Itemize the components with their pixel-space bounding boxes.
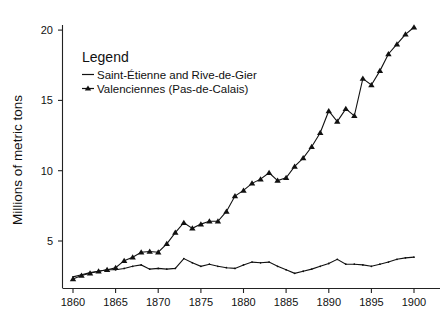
- data-point-marker: [388, 261, 390, 263]
- data-point-marker: [343, 106, 349, 111]
- x-tick-label-1885: 1885: [274, 296, 298, 308]
- data-point-marker: [336, 258, 338, 260]
- data-point-marker: [140, 264, 142, 266]
- data-point-marker: [319, 265, 321, 267]
- data-point-marker: [223, 208, 229, 213]
- data-point-marker: [405, 257, 407, 259]
- data-point-marker: [302, 270, 304, 272]
- data-point-marker: [166, 268, 168, 270]
- data-point-marker: [353, 263, 355, 265]
- data-point-marker: [360, 76, 366, 81]
- data-point-marker: [362, 264, 364, 266]
- line-chart-plot: 5 10 15 20 Millions of metric tons 1860 …: [0, 0, 447, 322]
- data-point-marker: [123, 268, 125, 270]
- chart-container: 5 10 15 20 Millions of metric tons 1860 …: [0, 0, 447, 322]
- data-point-marker: [191, 262, 193, 264]
- data-point-marker: [132, 265, 134, 267]
- data-point-marker: [377, 68, 383, 73]
- x-tick-label-1895: 1895: [359, 296, 383, 308]
- data-point-marker: [129, 254, 135, 259]
- data-point-marker: [328, 263, 330, 265]
- x-tick-label-1880: 1880: [231, 296, 255, 308]
- data-point-marker: [379, 263, 381, 265]
- y-tick-label-20: 20: [41, 24, 53, 36]
- x-tick-label-1860: 1860: [61, 296, 85, 308]
- data-point-marker: [189, 225, 195, 230]
- y-tick-label-10: 10: [41, 165, 53, 177]
- x-tick-label-1890: 1890: [317, 296, 341, 308]
- y-tick-label-15: 15: [41, 94, 53, 106]
- data-point-marker: [200, 265, 202, 267]
- legend-entry-saint-etienne: Saint-Étienne and Rive-de-Gier: [82, 69, 257, 81]
- data-point-marker: [370, 265, 372, 267]
- data-point-marker: [234, 268, 236, 270]
- data-point-marker: [396, 258, 398, 260]
- data-point-marker: [174, 268, 176, 270]
- data-point-marker: [251, 261, 253, 263]
- x-tick-marks: [73, 289, 414, 294]
- data-point-marker: [309, 144, 315, 149]
- legend-entry-valenciennes: Valenciennes (Pas-de-Calais): [82, 83, 248, 95]
- x-tick-label-1870: 1870: [146, 296, 170, 308]
- y-tick-marks: [58, 30, 63, 241]
- y-tick-labels: 5 10 15 20: [41, 24, 53, 247]
- data-point-marker: [413, 256, 415, 258]
- data-point-marker: [311, 268, 313, 270]
- data-point-marker: [345, 263, 347, 265]
- data-point-marker: [317, 130, 323, 135]
- legend-label-valenciennes: Valenciennes (Pas-de-Calais): [97, 83, 248, 95]
- data-point-marker: [277, 265, 279, 267]
- legend-title: Legend: [82, 49, 129, 65]
- data-point-marker: [183, 258, 185, 260]
- data-point-marker: [243, 264, 245, 266]
- x-tick-label-1865: 1865: [103, 296, 127, 308]
- x-tick-labels: 1860 1865 1870 1875 1880 1885 1890 1895 …: [61, 296, 426, 308]
- data-point-marker: [266, 170, 272, 175]
- data-point-marker: [260, 262, 262, 264]
- data-point-marker: [149, 268, 151, 270]
- series-line-path: [73, 27, 414, 279]
- x-tick-label-1875: 1875: [189, 296, 213, 308]
- data-point-marker: [249, 180, 255, 185]
- legend-label-saint-etienne: Saint-Étienne and Rive-de-Gier: [97, 69, 257, 81]
- y-tick-label-5: 5: [47, 235, 53, 247]
- data-point-marker: [294, 272, 296, 274]
- data-point-marker: [157, 268, 159, 270]
- data-point-marker: [226, 267, 228, 269]
- data-point-marker: [181, 220, 187, 225]
- data-point-marker: [147, 249, 153, 254]
- data-point-marker: [326, 108, 332, 113]
- x-tick-label-1900: 1900: [402, 296, 426, 308]
- data-point-marker: [411, 24, 417, 29]
- chart-legend: Legend Saint-Étienne and Rive-de-Gier Va…: [82, 49, 257, 95]
- data-point-marker: [285, 269, 287, 271]
- data-point-marker: [268, 261, 270, 263]
- data-point-marker: [232, 193, 238, 198]
- data-point-marker: [217, 265, 219, 267]
- data-point-marker: [209, 263, 211, 265]
- y-axis-title: Millions of metric tons: [10, 95, 25, 225]
